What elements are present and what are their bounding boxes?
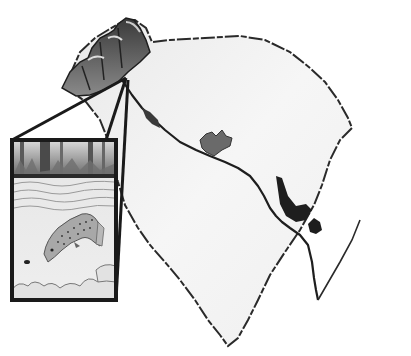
map-illustration: [0, 0, 411, 356]
lake-4: [308, 218, 322, 234]
fly-lure: [24, 260, 30, 264]
trout-inset: [12, 140, 116, 300]
tree-trunk: [40, 140, 50, 174]
river-tributary: [318, 220, 360, 300]
illustration-canvas: [0, 0, 411, 356]
